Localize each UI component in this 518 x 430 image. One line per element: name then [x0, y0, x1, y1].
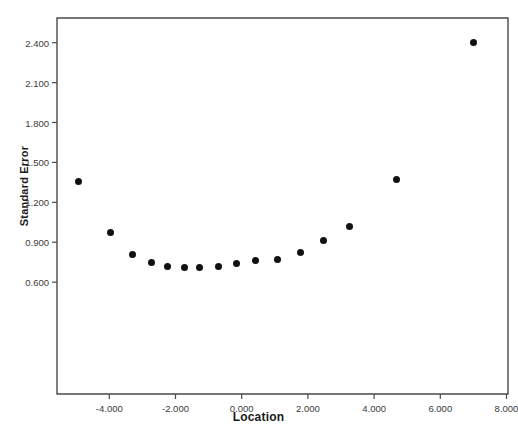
data-point — [181, 264, 188, 271]
y-axis-title: Standard Error — [18, 106, 30, 266]
data-point — [129, 251, 136, 258]
data-point — [215, 263, 222, 270]
data-point — [164, 263, 171, 270]
y-tick-label: 2.100 — [25, 77, 49, 88]
x-axis-title: Location — [0, 410, 517, 424]
y-tick-label: 0.600 — [25, 277, 49, 288]
data-point — [75, 178, 82, 185]
y-tick-label: 2.400 — [25, 37, 49, 48]
data-point — [320, 237, 327, 244]
data-point — [274, 256, 281, 263]
data-point — [233, 260, 240, 267]
